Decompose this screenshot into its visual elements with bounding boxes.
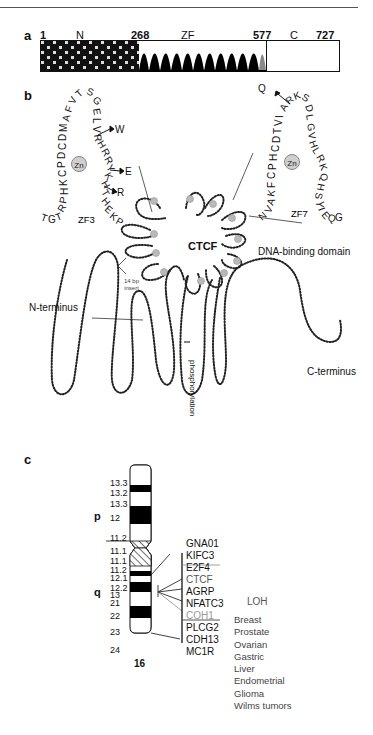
- insert-label-line1: 14 bp: [124, 278, 139, 285]
- arm-q-label: q: [94, 586, 101, 598]
- gene-ctcf: CTCF: [186, 574, 224, 586]
- svg-text:I: I: [274, 115, 285, 118]
- svg-text:L: L: [91, 118, 102, 124]
- page-top-rule: [0, 7, 358, 8]
- zf3-zn-ion: Zn: [72, 157, 87, 172]
- svg-text:D: D: [56, 152, 67, 159]
- band-label: 23: [110, 627, 120, 637]
- cancer-endometrial: Endometrial: [234, 675, 292, 687]
- n-terminus-label: N-terminus: [29, 302, 78, 313]
- svg-text:D: D: [303, 103, 316, 114]
- svg-text:C: C: [270, 145, 281, 152]
- svg-text:H: H: [59, 188, 70, 195]
- svg-text:L: L: [304, 113, 316, 121]
- arm-p-label: p: [94, 510, 101, 522]
- svg-text:S: S: [300, 91, 312, 104]
- cancer-liver: Liver: [234, 663, 292, 675]
- svg-text:C: C: [57, 143, 68, 150]
- svg-text:G: G: [335, 212, 343, 223]
- cancer-list: Breast Prostate Ovarian Gastric Liver En…: [234, 614, 292, 712]
- band-label: 24: [110, 645, 120, 655]
- zf3-zn-label: Zn: [74, 161, 83, 170]
- svg-text:P: P: [267, 163, 278, 170]
- svg-text:E: E: [91, 107, 103, 116]
- svg-text:K: K: [265, 189, 277, 198]
- svg-text:V: V: [91, 126, 102, 133]
- svg-text:Q: Q: [258, 83, 266, 94]
- ctcf-structure-diagram: T G T R P H K C P D C D M A F V T S G E …: [0, 80, 373, 440]
- svg-text:K: K: [58, 179, 69, 186]
- zf7-zn-ion: Zn: [285, 155, 300, 170]
- gene-mc1r: MC1R: [186, 646, 224, 658]
- loh-label: LOH: [247, 596, 268, 607]
- c-terminus-label: C-terminus: [307, 366, 356, 377]
- svg-text:H: H: [315, 183, 327, 192]
- gene-e2f4: E2F4: [186, 562, 224, 574]
- svg-text:D: D: [57, 134, 68, 141]
- gene-coh1: COH1: [186, 610, 224, 622]
- svg-text:F: F: [266, 182, 277, 188]
- phosphorylation-label: phosphorylation: [188, 360, 197, 416]
- zf3-label: ZF3: [78, 214, 95, 225]
- gene-cdh13: CDH13: [186, 634, 224, 646]
- gene-nfatc3: NFATC3: [186, 598, 224, 610]
- svg-text:C: C: [266, 172, 277, 179]
- protein-domain-bar: [40, 40, 342, 74]
- cancer-glioma: Glioma: [234, 688, 292, 700]
- cancer-prostate: Prostate: [234, 626, 292, 638]
- band-label: 12.1: [110, 573, 128, 583]
- gene-list: GNA01 KIFC3 E2F4 CTCF AGRP NFATC3 COH1 P…: [186, 538, 224, 658]
- svg-text:S: S: [85, 86, 95, 99]
- cancer-ovarian: Ovarian: [234, 639, 292, 651]
- dna-binding-domain-label: DNA-binding domain: [258, 246, 350, 257]
- chromosome-number: 16: [134, 658, 145, 669]
- svg-text:M: M: [58, 124, 69, 132]
- n-terminal-domain: [41, 41, 139, 71]
- panel-c-label: c: [24, 452, 31, 467]
- insert-label-line2: insert: [124, 285, 139, 292]
- svg-text:C: C: [57, 170, 68, 177]
- gene-plcg2: PLCG2: [186, 622, 224, 634]
- gene-agrp: AGRP: [186, 586, 224, 598]
- cancer-wilms-tumors: Wilms tumors: [234, 700, 292, 712]
- svg-text:P: P: [56, 161, 67, 168]
- panel-a-label: a: [24, 28, 31, 43]
- svg-text:Q: Q: [318, 172, 330, 182]
- cancer-gastric: Gastric: [234, 651, 292, 663]
- insert-annotation: 14 bp insert: [124, 278, 139, 292]
- zf7-zn-label: Zn: [287, 159, 296, 168]
- band-label: 11.2: [110, 533, 127, 543]
- svg-text:T: T: [73, 87, 85, 99]
- band-label: 13.3: [110, 499, 128, 509]
- gene-kifc3: KIFC3: [186, 550, 224, 562]
- zf7-label: ZF7: [291, 208, 308, 219]
- band-label: 11.1: [110, 546, 127, 556]
- svg-text:D: D: [271, 136, 282, 143]
- svg-text:R: R: [117, 187, 124, 198]
- svg-text:S: S: [313, 192, 325, 201]
- svg-text:E: E: [125, 166, 132, 177]
- band-label: 22: [110, 611, 120, 621]
- cancer-breast: Breast: [234, 614, 292, 626]
- band-label: 12: [110, 513, 120, 523]
- svg-text:G: G: [90, 94, 104, 107]
- svg-text:V: V: [273, 119, 284, 126]
- svg-text:T: T: [272, 128, 283, 134]
- svg-text:W: W: [115, 124, 125, 135]
- ctcf-center-label: CTCF: [188, 240, 217, 252]
- zf7-sequence: N V A K F C P H C D T V I A R K S D L G …: [256, 89, 343, 224]
- gene-gna01: GNA01: [186, 538, 224, 550]
- band-label: 21: [110, 598, 120, 608]
- svg-text:P: P: [57, 196, 69, 205]
- band-label: 13.2: [110, 488, 128, 498]
- svg-text:H: H: [268, 154, 279, 161]
- band-label: 13.3: [110, 478, 128, 488]
- svg-text:A: A: [60, 114, 72, 123]
